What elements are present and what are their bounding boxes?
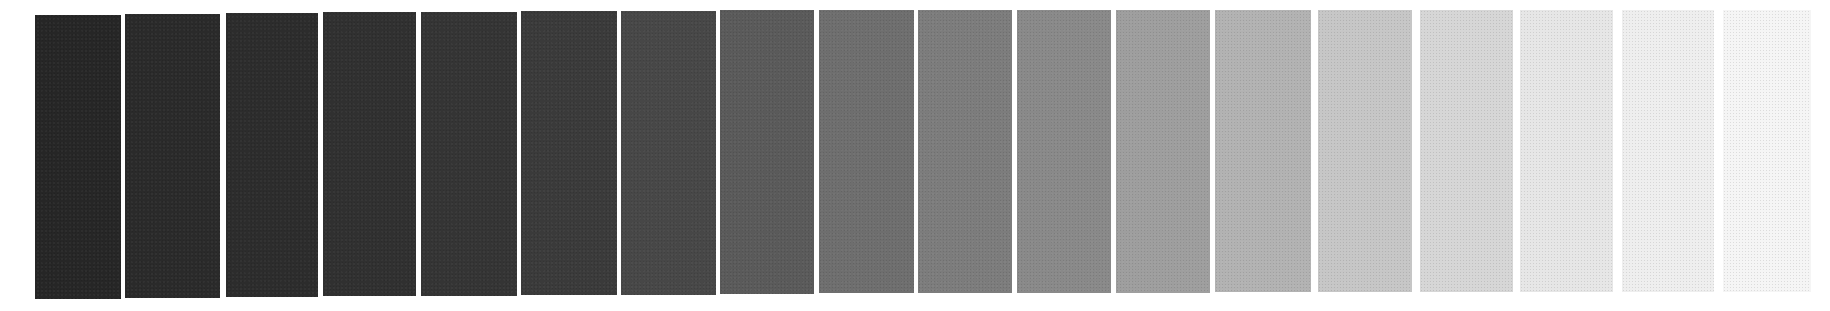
gray-step-15: [1420, 10, 1513, 292]
gray-step-11: [1017, 10, 1111, 293]
gray-step-17: [1622, 10, 1714, 292]
gray-step-12: [1116, 10, 1210, 293]
gray-step-1: [35, 15, 121, 299]
gray-step-8: [720, 10, 814, 294]
gray-step-10: [918, 10, 1012, 293]
gray-step-14: [1318, 10, 1412, 292]
gray-step-6: [521, 11, 617, 295]
gray-step-7: [621, 11, 716, 295]
gray-step-4: [323, 12, 416, 296]
gray-step-2: [125, 14, 220, 298]
gray-step-3: [226, 13, 318, 297]
grayscale-step-wedge: [0, 0, 1830, 311]
gray-step-13: [1215, 10, 1311, 292]
gray-step-18: [1723, 10, 1811, 292]
gray-step-5: [421, 12, 517, 296]
gray-step-16: [1520, 10, 1613, 292]
gray-step-9: [819, 10, 914, 293]
